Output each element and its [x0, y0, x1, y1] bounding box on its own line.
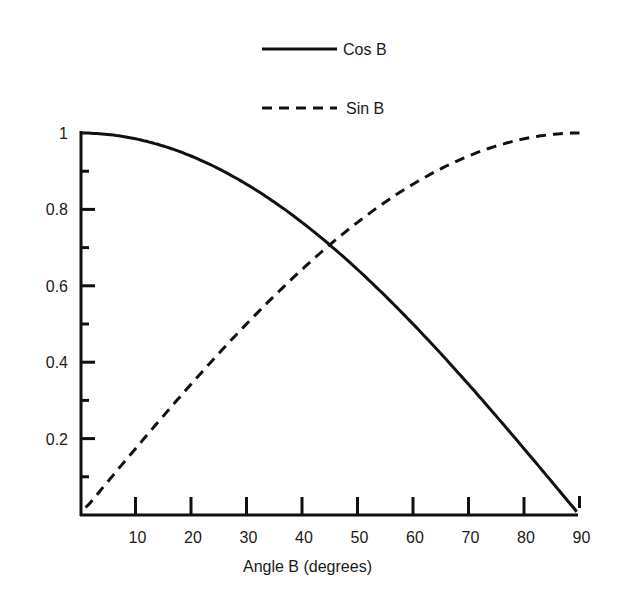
- y-ticks: 0.20.40.60.81: [46, 125, 95, 477]
- legend: Cos B Sin B: [262, 41, 387, 117]
- cos-b-line: [80, 133, 577, 512]
- series: [80, 133, 580, 512]
- y-tick-label: 1: [59, 125, 68, 142]
- legend-sin-label: Sin B: [346, 100, 384, 117]
- y-tick-label: 0.8: [46, 201, 68, 218]
- axes: 0.20.40.60.81 102030405060708090 Angle B…: [46, 125, 591, 575]
- x-axis-label: Angle B (degrees): [243, 558, 372, 575]
- sin-b-line: [86, 133, 580, 507]
- y-tick-label: 0.2: [46, 431, 68, 448]
- x-tick-label: 30: [240, 529, 258, 546]
- x-tick-label: 80: [517, 529, 535, 546]
- x-ticks: 102030405060708090: [129, 496, 591, 546]
- legend-cos-label: Cos B: [343, 41, 387, 58]
- x-tick-label: 40: [295, 529, 313, 546]
- x-tick-label: 50: [351, 529, 369, 546]
- y-tick-label: 0.6: [46, 278, 68, 295]
- x-tick-label: 20: [184, 529, 202, 546]
- y-tick-label: 0.4: [46, 354, 68, 371]
- x-tick-label: 10: [129, 529, 147, 546]
- chart: Cos B Sin B 0.20.40.60.81 10203040506070…: [0, 0, 622, 611]
- x-tick-label: 70: [462, 529, 480, 546]
- x-tick-label: 60: [406, 529, 424, 546]
- x-tick-label: 90: [573, 529, 591, 546]
